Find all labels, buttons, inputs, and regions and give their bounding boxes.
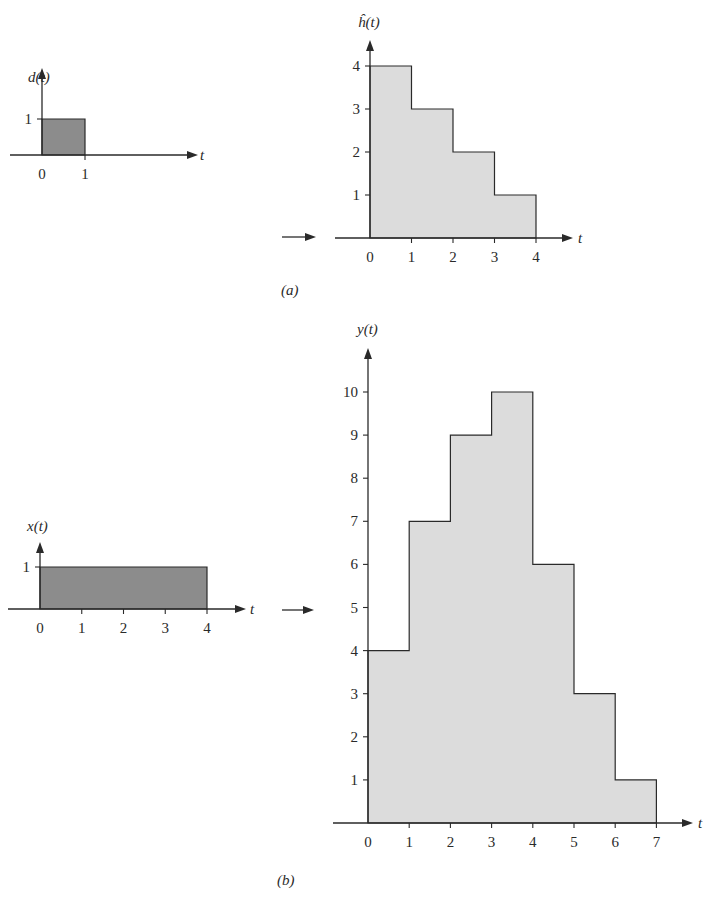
y-axis-label: y(t) [355,321,378,338]
figure: td(t)011tĥ(t)012341234tx(t)012341ty(t)01… [0,0,713,898]
x-axis-arrow-icon [562,234,573,242]
y-tick-label: 7 [351,513,359,529]
x-axis-arrow-icon [187,151,198,159]
arrow-icon [282,606,314,614]
x-tick-label: 0 [364,834,372,850]
y-tick-label: 3 [351,686,359,702]
y-tick-label: 2 [351,729,359,745]
y-axis-arrow-icon [366,40,374,51]
x-axis-label: t [578,230,583,246]
y-tick-label: 2 [353,144,361,160]
x-tick-label: 4 [203,620,211,636]
y-tick-label: 9 [351,427,359,443]
y-tick-label: 1 [351,772,359,788]
x-tick-label: 1 [81,166,89,182]
y-axis-arrow-icon [364,348,372,359]
y-tick-label: 10 [343,384,358,400]
x-tick-label: 0 [366,249,374,265]
y-tick-label: 5 [351,600,359,616]
x-tick-label: 2 [447,834,455,850]
y-axis-label: ĥ(t) [358,14,380,31]
x-tick-label: 7 [653,834,661,850]
x-tick-label: 5 [570,834,578,850]
d-plot: td(t)011 [10,68,205,182]
step-area [42,119,85,155]
x-axis-arrow-icon [682,819,693,827]
x-tick-label: 6 [611,834,619,850]
x-tick-label: 1 [405,834,413,850]
y-tick-label: 1 [353,187,361,203]
y-plot: ty(t)0123456712345678910 [333,321,703,850]
x-tick-label: 3 [162,620,170,636]
step-area [370,66,536,238]
x-axis-label: t [250,601,255,617]
h-plot: tĥ(t)012341234 [335,14,583,265]
x-tick-label: 0 [36,620,44,636]
y-tick-label: 3 [353,101,361,117]
y-tick-label: 1 [25,111,33,127]
x-axis-label: t [200,147,205,163]
x-tick-label: 1 [78,620,86,636]
step-area [40,567,207,609]
arrow-icon [282,233,316,241]
y-tick-label: 1 [23,559,31,575]
x-tick-label: 0 [38,166,46,182]
x-plot: tx(t)012341 [8,518,255,636]
caption-a: (a) [281,282,299,299]
caption-b: (b) [277,872,295,889]
y-axis-arrow-icon [36,542,44,553]
y-tick-label: 8 [351,470,359,486]
y-axis-label: x(t) [26,518,48,535]
x-tick-label: 3 [488,834,496,850]
x-axis-label: t [698,815,703,831]
x-tick-label: 1 [408,249,416,265]
y-tick-label: 4 [351,643,359,659]
x-tick-label: 4 [532,249,540,265]
y-tick-label: 6 [351,556,359,572]
x-tick-label: 4 [529,834,537,850]
y-tick-label: 4 [353,58,361,74]
x-tick-label: 3 [491,249,499,265]
x-tick-label: 2 [449,249,457,265]
step-area [368,392,656,823]
x-axis-arrow-icon [235,605,246,613]
y-axis-label: d(t) [28,69,50,86]
x-tick-label: 2 [120,620,128,636]
